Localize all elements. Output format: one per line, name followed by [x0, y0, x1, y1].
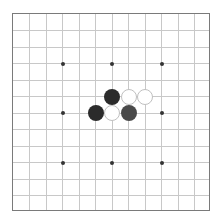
- go-board[interactable]: [12, 13, 210, 211]
- star-point: [61, 62, 65, 66]
- black-stone: [104, 89, 120, 105]
- black-stone: [88, 105, 104, 121]
- grid-line-horizontal: [13, 179, 209, 180]
- grid-line-vertical: [145, 14, 146, 210]
- grid-line-vertical: [194, 14, 195, 210]
- grid-line-horizontal: [13, 195, 209, 196]
- grid-line-vertical: [178, 14, 179, 210]
- star-point: [61, 111, 65, 115]
- white-stone: [121, 89, 137, 105]
- star-point: [110, 62, 114, 66]
- white-stone: [137, 89, 153, 105]
- star-point: [61, 161, 65, 165]
- grid-line-horizontal: [13, 146, 209, 147]
- star-point: [160, 111, 164, 115]
- black-stone: [121, 105, 137, 121]
- grid-line-horizontal: [13, 129, 209, 130]
- white-stone: [104, 105, 120, 121]
- star-point: [110, 161, 114, 165]
- star-point: [160, 62, 164, 66]
- star-point: [160, 161, 164, 165]
